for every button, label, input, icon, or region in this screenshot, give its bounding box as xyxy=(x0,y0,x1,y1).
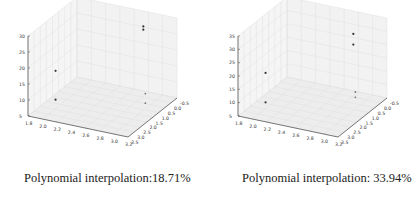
y-tick-label: -0.5 xyxy=(390,101,399,106)
data-point xyxy=(54,99,56,101)
data-point xyxy=(354,91,356,93)
caption-left: Polynomial interpolation:18.71% xyxy=(24,171,191,189)
data-point xyxy=(354,96,356,98)
y-tick-label: 3.5 xyxy=(341,140,348,145)
x-tick-label: 2.0 xyxy=(249,124,256,129)
data-point xyxy=(142,29,144,31)
z-tick-label: 10 xyxy=(229,100,235,105)
z-tick-label: 15 xyxy=(19,82,25,87)
z-tick-label: 25 xyxy=(19,50,25,55)
x-tick-label: 2.0 xyxy=(39,124,46,129)
z-tick-label: 20 xyxy=(229,74,235,79)
caption-right: Polynomial interpolation: 33.94% xyxy=(242,171,412,189)
x-tick-label: 2.6 xyxy=(82,133,89,138)
axes-panes xyxy=(28,0,177,137)
z-tick-label: 15 xyxy=(229,87,235,92)
x-tick-label: 2.6 xyxy=(292,133,299,138)
z-tick-label: 30 xyxy=(19,34,25,39)
z-tick-label: 5 xyxy=(19,114,22,119)
data-point xyxy=(144,102,146,104)
z-tick-label: 20 xyxy=(19,66,25,71)
data-point xyxy=(352,43,354,45)
x-tick-label: 2.2 xyxy=(54,127,61,132)
data-point xyxy=(352,33,354,35)
data-point xyxy=(264,72,266,74)
scatter3d-chart-left: 1.82.02.22.42.62.83.03.2-0.50.00.51.01.5… xyxy=(0,0,209,160)
x-tick-label: 1.8 xyxy=(25,121,32,126)
scatter3d-panel-right: 1.82.02.22.42.62.83.03.2-0.50.00.51.01.5… xyxy=(210,0,419,160)
y-tick-label: -0.5 xyxy=(180,101,189,106)
z-tick-label: 35 xyxy=(229,34,235,39)
x-tick-label: 3.0 xyxy=(321,139,328,144)
data-point xyxy=(142,25,144,27)
x-tick-label: 2.4 xyxy=(278,130,285,135)
scatter3d-panel-left: 1.82.02.22.42.62.83.03.2-0.50.00.51.01.5… xyxy=(0,0,209,160)
x-tick-label: 2.8 xyxy=(96,136,103,141)
axes-panes xyxy=(238,0,387,137)
data-point xyxy=(264,101,266,103)
y-tick-label: 3.5 xyxy=(131,140,138,145)
data-point xyxy=(144,93,146,95)
z-tick-label: 25 xyxy=(229,60,235,65)
z-tick-label: 10 xyxy=(19,98,25,103)
z-tick-label: 5 xyxy=(229,114,232,119)
x-tick-label: 3.0 xyxy=(111,139,118,144)
data-point xyxy=(54,70,56,72)
scatter3d-chart-right: 1.82.02.22.42.62.83.03.2-0.50.00.51.01.5… xyxy=(210,0,419,160)
x-tick-label: 1.8 xyxy=(235,121,242,126)
x-tick-label: 2.8 xyxy=(306,136,313,141)
x-tick-label: 2.4 xyxy=(68,130,75,135)
x-tick-label: 2.2 xyxy=(264,127,271,132)
z-tick-label: 30 xyxy=(229,47,235,52)
